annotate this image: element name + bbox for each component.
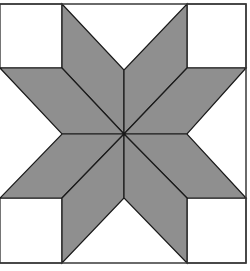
star-quilt-block [0,0,250,271]
corner-square-bottom-right [187,198,246,263]
corner-square-top-left [0,4,62,68]
corner-square-top-right [187,4,246,68]
corner-square-bottom-left [0,198,62,263]
